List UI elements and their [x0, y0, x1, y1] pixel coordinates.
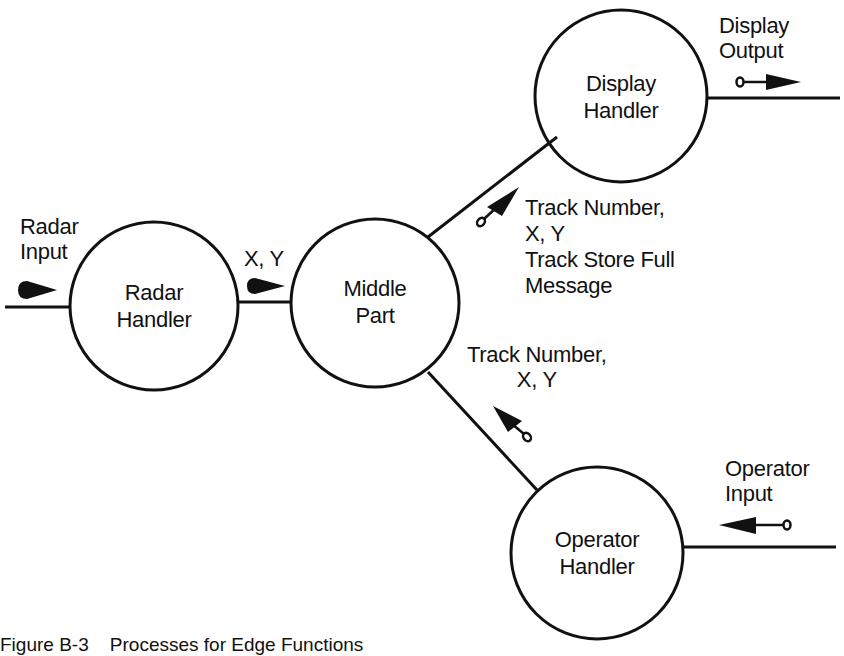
operator-handler-label-line1: Operator [537, 526, 657, 553]
display-output-arrow-icon [737, 74, 802, 90]
radar-input-label-line1: Radar [20, 214, 78, 239]
display-handler-label-line2: Handler [566, 97, 676, 124]
display-handler-label-line1: Display [566, 70, 676, 97]
operator-input-label-line2: Input [725, 481, 809, 506]
middle-part-label-line1: Middle [325, 275, 425, 302]
operator-to-middle-label: Track Number, X, Y [467, 342, 607, 392]
radar-handler-label-line2: Handler [104, 306, 204, 333]
operator-input-label: Operator Input [725, 456, 809, 506]
figure-caption: Figure B-3 Processes for Edge Functions [0, 634, 363, 656]
display-output-label: Display Output [719, 13, 789, 63]
radar-to-middle-label-line1: X, Y [244, 246, 284, 271]
operator-handler-label-line2: Handler [537, 553, 657, 580]
track-from-operator-arrow-icon [493, 406, 533, 443]
display-output-label-line1: Display [719, 13, 789, 38]
middle-to-display-label: Track Number, X, Y Track Store Full Mess… [525, 195, 675, 299]
radar-input-label-line2: Input [20, 239, 78, 264]
middle-to-display-label-line2: X, Y [525, 221, 675, 247]
operator-to-middle-label-line2: X, Y [467, 367, 607, 392]
xy-flow-arrow-icon [247, 278, 285, 294]
radar-handler-label-line1: Radar [104, 279, 204, 306]
radar-to-middle-label: X, Y [244, 246, 284, 271]
display-handler-label: Display Handler [566, 70, 676, 124]
middle-to-display-label-line1: Track Number, [525, 195, 675, 221]
radar-input-label: Radar Input [20, 214, 78, 264]
middle-part-label-line2: Part [325, 302, 425, 329]
middle-part-label: Middle Part [325, 275, 425, 329]
middle-to-display-label-line4: Message [525, 273, 675, 299]
radar-input-arrow-icon [18, 281, 57, 299]
track-to-display-arrow-icon [475, 187, 519, 228]
operator-input-arrow-icon [719, 517, 791, 534]
operator-input-label-line1: Operator [725, 456, 809, 481]
middle-to-display-label-line3: Track Store Full [525, 247, 675, 273]
operator-handler-label: Operator Handler [537, 526, 657, 580]
radar-handler-label: Radar Handler [104, 279, 204, 333]
display-output-label-line2: Output [719, 38, 789, 63]
operator-to-middle-label-line1: Track Number, [467, 342, 607, 367]
